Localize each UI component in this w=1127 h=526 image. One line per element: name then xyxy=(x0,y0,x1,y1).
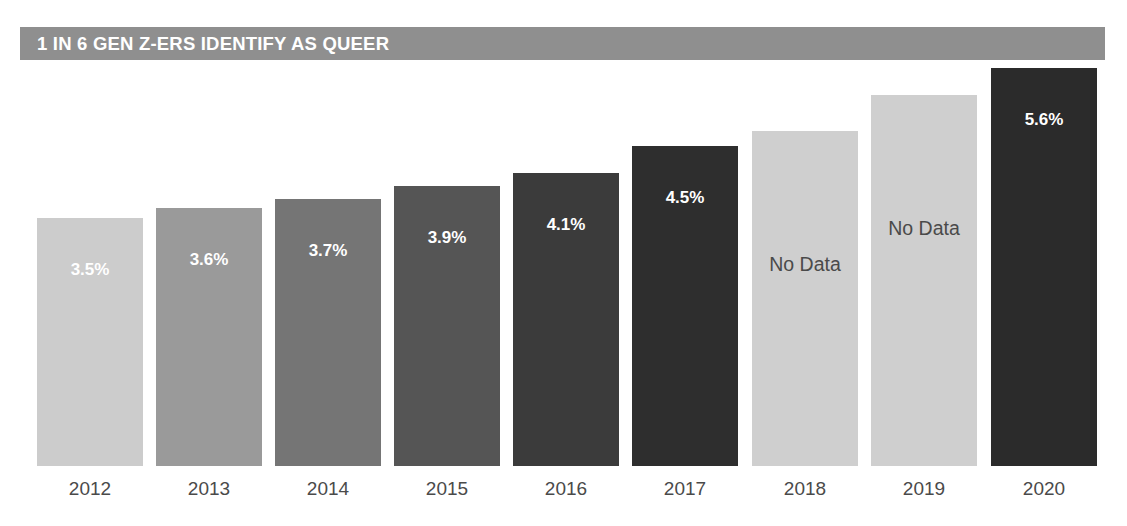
bar-group: No Data xyxy=(871,95,977,466)
x-tick-2020: 2020 xyxy=(991,478,1097,500)
x-tick-2017: 2017 xyxy=(632,478,738,500)
bar-group: 5.6% xyxy=(991,68,1097,466)
bar-group: 3.7% xyxy=(275,199,381,466)
bar-2018[interactable] xyxy=(752,131,858,466)
bar-group: 4.5% xyxy=(632,146,738,466)
bar-group: 4.1% xyxy=(513,173,619,466)
x-tick-2015: 2015 xyxy=(394,478,500,500)
bar-group: 3.6% xyxy=(156,208,262,466)
bar-2014[interactable] xyxy=(275,199,381,466)
bar-nodata-label: No Data xyxy=(871,217,977,240)
bar-2013[interactable] xyxy=(156,208,262,466)
x-tick-2016: 2016 xyxy=(513,478,619,500)
bar-value-label: 4.5% xyxy=(632,188,738,208)
bar-value-label: 3.9% xyxy=(394,228,500,248)
x-tick-2018: 2018 xyxy=(752,478,858,500)
x-axis: 201220132014201520162017201820192020 xyxy=(0,466,1127,526)
bar-2019[interactable] xyxy=(871,95,977,466)
bar-group: 3.5% xyxy=(37,218,143,466)
bar-value-label: 3.6% xyxy=(156,250,262,270)
bar-nodata-label: No Data xyxy=(752,253,858,276)
chart-figure: 1 IN 6 GEN Z-ERS IDENTIFY AS QUEER 3.5%3… xyxy=(0,0,1127,526)
bar-group: 3.9% xyxy=(394,186,500,466)
bar-2012[interactable] xyxy=(37,218,143,466)
bar-value-label: 4.1% xyxy=(513,215,619,235)
x-tick-2012: 2012 xyxy=(37,478,143,500)
bar-value-label: 5.6% xyxy=(991,110,1097,130)
x-tick-2014: 2014 xyxy=(275,478,381,500)
plot-area: 3.5%3.6%3.7%3.9%4.1%4.5%No DataNo Data5.… xyxy=(0,0,1127,466)
x-tick-2019: 2019 xyxy=(871,478,977,500)
bar-group: No Data xyxy=(752,131,858,466)
bar-value-label: 3.7% xyxy=(275,241,381,261)
x-tick-2013: 2013 xyxy=(156,478,262,500)
bar-value-label: 3.5% xyxy=(37,260,143,280)
